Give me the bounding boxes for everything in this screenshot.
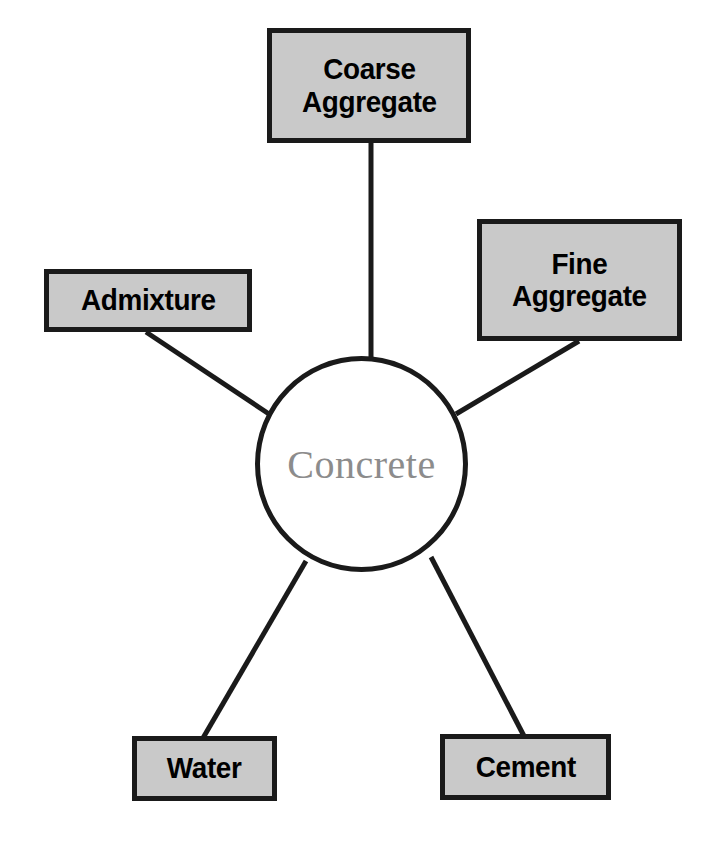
node-coarse-aggregate-line2: Aggregate <box>302 85 437 118</box>
connector-water-to-concrete <box>203 561 306 738</box>
node-concrete-label: Concrete <box>287 441 435 488</box>
node-water-label: Water <box>167 752 242 784</box>
node-cement[interactable]: Cement <box>440 734 611 800</box>
node-coarse-aggregate-line1: Coarse <box>323 52 415 85</box>
node-water[interactable]: Water <box>132 736 277 801</box>
node-cement-label: Cement <box>475 751 575 783</box>
node-fine-aggregate-line1: Fine <box>552 247 608 280</box>
node-coarse-aggregate[interactable]: Coarse Aggregate <box>267 28 471 143</box>
node-fine-aggregate-line2: Aggregate <box>512 279 647 312</box>
connector-admixture-to-concrete <box>146 332 272 416</box>
concrete-components-diagram: Coarse Aggregate Fine Aggregate Admixtur… <box>0 0 717 846</box>
node-fine-aggregate-label: Fine Aggregate <box>512 248 647 313</box>
connector-cement-to-concrete <box>431 557 524 736</box>
node-admixture-label: Admixture <box>81 284 216 316</box>
node-coarse-aggregate-label: Coarse Aggregate <box>302 53 437 118</box>
connector-fine-aggregate-to-concrete <box>456 341 579 414</box>
node-admixture[interactable]: Admixture <box>44 269 252 332</box>
node-fine-aggregate[interactable]: Fine Aggregate <box>477 219 682 341</box>
node-concrete-center[interactable]: Concrete <box>255 356 468 572</box>
